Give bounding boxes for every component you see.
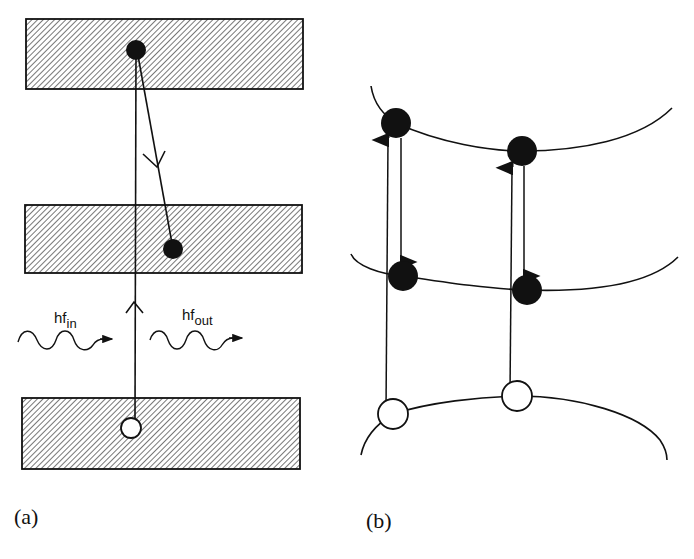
photon-out-subscript: out (195, 313, 213, 328)
relaxed-electron (163, 239, 183, 259)
wavy-photon-icon (150, 331, 233, 350)
hole-left (378, 399, 408, 429)
lower-band (22, 398, 300, 469)
photon-in-subscript: in (67, 316, 77, 331)
upper-band (26, 19, 303, 89)
excited-electron (126, 40, 146, 60)
hole-right (502, 381, 532, 411)
wavy-photon-icon (18, 331, 104, 350)
photon-in-label: hf (54, 309, 67, 326)
svg-text:hfin: hfin (54, 309, 77, 331)
excitation-line (135, 50, 136, 418)
electron-upper-left (381, 108, 411, 138)
panel-a-label: (a) (14, 506, 38, 528)
excitation-arrow-right (510, 168, 512, 392)
outgoing-photon: hfout (150, 306, 242, 350)
middle-band (25, 205, 302, 273)
electron-middle-right (512, 275, 542, 305)
down-arrow-icon (143, 151, 165, 167)
panel-b-label: (b) (366, 510, 392, 532)
diagram-figure: hfin hfout (0, 0, 694, 559)
incoming-photon: hfin (18, 309, 112, 350)
excitation-arrow-left (386, 140, 388, 410)
panel-a: hfin hfout (18, 19, 303, 469)
electron-upper-right (507, 136, 537, 166)
hole (121, 418, 141, 438)
electron-middle-left (388, 261, 418, 291)
svg-text:hfout: hfout (182, 306, 213, 328)
photon-out-label: hf (182, 306, 195, 323)
panel-b (351, 86, 678, 460)
